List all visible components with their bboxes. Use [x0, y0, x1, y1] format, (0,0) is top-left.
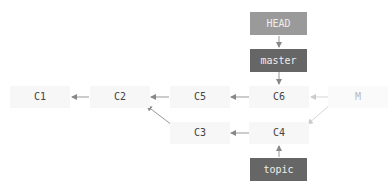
commit-m: M	[328, 86, 388, 108]
commit-c4: C4	[249, 122, 309, 144]
commit-c6: C6	[249, 86, 309, 108]
commit-c2: C2	[90, 86, 150, 108]
edge-c3-c2	[147, 106, 172, 125]
head-ref: HEAD	[250, 12, 307, 35]
commit-c5: C5	[170, 86, 230, 108]
branch-topic: topic	[250, 158, 307, 181]
branch-master: master	[250, 49, 307, 72]
commit-c1: C1	[10, 86, 70, 108]
commit-c3: C3	[170, 122, 230, 144]
